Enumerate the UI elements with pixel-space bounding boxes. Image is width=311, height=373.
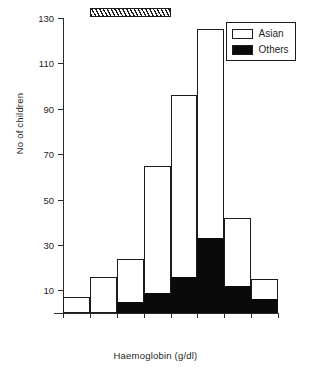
- legend-swatch-asian: [232, 29, 253, 39]
- legend-label-asian: Asian: [259, 29, 284, 39]
- y-tick-label: 10: [43, 285, 54, 296]
- histogram-bin: [63, 297, 90, 313]
- histogram-bin: [197, 29, 224, 313]
- histogram-bin: [251, 279, 278, 313]
- plot-area: 1030507090110130 789101112131415: [63, 18, 278, 313]
- y-tick-label: 90: [43, 103, 54, 114]
- y-tick-label: 50: [43, 194, 54, 205]
- bar-segment-others: [144, 293, 171, 313]
- x-tick: 12: [197, 313, 198, 318]
- x-axis-line: [54, 313, 278, 314]
- legend: Asian Others: [226, 22, 296, 61]
- y-tick-label: 30: [43, 239, 54, 250]
- bar-segment-others: [224, 286, 251, 313]
- legend-swatch-others: [232, 45, 253, 55]
- bar-segment-asian: [144, 166, 171, 314]
- histogram-bin: [224, 218, 251, 313]
- histogram-bin: [117, 259, 144, 313]
- bar-segment-asian: [63, 297, 90, 313]
- x-tick: 13: [224, 313, 225, 318]
- bar-segment-asian: [90, 277, 117, 313]
- bars-group: [63, 18, 278, 313]
- legend-item: Others: [232, 43, 289, 56]
- histogram-chart: No of children Haemoglobin (g/dl) 103050…: [0, 0, 311, 373]
- x-tick: 11: [171, 313, 172, 318]
- legend-label-others: Others: [259, 45, 289, 55]
- bar-segment-others: [171, 277, 198, 313]
- x-tick: 10: [144, 313, 145, 318]
- y-tick-label: 130: [38, 13, 54, 24]
- x-tick: 7: [63, 313, 64, 318]
- bar-segment-others: [197, 238, 224, 313]
- x-axis-title: Haemoglobin (g/dl): [0, 350, 311, 361]
- bar-segment-others: [117, 302, 144, 313]
- x-tick: 15: [278, 313, 279, 318]
- x-tick: 8: [90, 313, 91, 318]
- y-tick-label: 110: [39, 58, 54, 69]
- normal-range-marker: [90, 8, 171, 17]
- histogram-bin: [144, 166, 171, 314]
- histogram-bin: [171, 95, 198, 313]
- x-tick: 14: [251, 313, 252, 318]
- y-tick-label: 70: [43, 149, 54, 160]
- x-tick: 9: [117, 313, 118, 318]
- histogram-bin: [90, 277, 117, 313]
- y-axis-title: No of children: [14, 69, 25, 179]
- legend-item: Asian: [232, 27, 289, 40]
- bar-segment-others: [251, 299, 278, 313]
